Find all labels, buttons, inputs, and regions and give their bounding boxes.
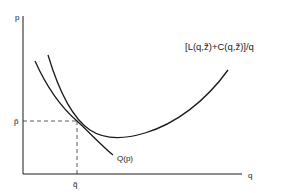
p-tilde-label: p̃ [14,117,19,126]
average-cost-curve [48,55,228,138]
q-tilde-label: q̃ [73,180,78,189]
average-cost-label: [L(q,z̃)+C(q,z̃)]/q [185,41,254,52]
economics-diagram: p q p̃ q̃ [L(q,z̃)+C(q,z̃)]/q Q(p) [0,0,289,193]
demand-curve-label: Q(p) [117,154,133,163]
y-axis-label: p [15,13,20,22]
x-axis-label: q [248,171,252,180]
demand-curve [35,61,113,155]
